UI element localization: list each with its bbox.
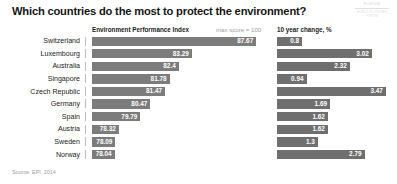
change-bar-track: 0.8 [277, 37, 390, 46]
country-label: Austria [0, 125, 80, 133]
country-label: Switzerland [0, 37, 80, 45]
change-bar-track: 1.62 [277, 125, 390, 134]
row-tick [85, 137, 86, 146]
row-tick [85, 37, 86, 46]
chart-rows: Switzerland87.670.8Luxembourg83.293.02Au… [0, 36, 397, 162]
change-bar[interactable]: 3.47 [277, 87, 386, 96]
change-bar-track: 1.69 [277, 99, 390, 108]
row-tick [85, 125, 86, 134]
row-tick [85, 87, 86, 96]
row-tick [85, 74, 86, 83]
change-bar-track: 3.02 [277, 49, 390, 58]
epi-bar[interactable]: 81.78 [92, 74, 170, 83]
change-bar-value: 0.94 [291, 76, 306, 82]
epi-bar-value: 81.47 [146, 88, 165, 94]
country-label: Luxembourg [0, 50, 80, 58]
epi-bar-value: 82.4 [163, 63, 178, 69]
change-bar[interactable]: 0.8 [277, 37, 302, 46]
change-bar-value: 1.62 [312, 126, 327, 132]
change-bar-value: 0.8 [290, 38, 302, 44]
epi-bar[interactable]: 78.04 [92, 150, 115, 159]
row-tick [85, 112, 86, 121]
change-bar-track: 2.79 [277, 150, 390, 159]
epi-bar-track: 81.78 [92, 74, 264, 83]
publisher-logo: FORUM WORLD ECONOMIC FORUM [351, 1, 393, 22]
country-label: Australia [0, 62, 80, 70]
epi-bar-track: 80.47 [92, 99, 264, 108]
country-label: Germany [0, 100, 80, 108]
change-bar-value: 1.62 [312, 114, 327, 120]
row-tick [85, 99, 86, 108]
epi-bar[interactable]: 79.79 [92, 112, 140, 121]
epi-bar-value: 81.78 [151, 76, 170, 82]
epi-bar-track: 82.4 [92, 62, 264, 71]
epi-bar[interactable]: 80.47 [92, 99, 150, 108]
epi-bar-track: 79.79 [92, 112, 264, 121]
epi-bar-track: 78.32 [92, 125, 264, 134]
change-bar[interactable]: 3.02 [277, 49, 372, 58]
epi-bar-track: 87.67 [92, 37, 264, 46]
change-bar-track: 3.47 [277, 87, 390, 96]
change-bar[interactable]: 2.32 [277, 62, 350, 71]
logo-divider [355, 8, 389, 9]
page-title: Which countries do the most to protect t… [12, 5, 306, 17]
logo-wordmark: FORUM [351, 1, 393, 7]
epi-bar-track: 78.09 [92, 137, 264, 146]
change-bar-value: 1.69 [315, 101, 330, 107]
chart-row: Germany80.471.69 [0, 99, 397, 112]
country-label: Norway [0, 151, 80, 159]
chart-row: Sweden78.091.3 [0, 137, 397, 150]
chart-row: Czech Republic81.473.47 [0, 86, 397, 99]
country-label: Spain [0, 113, 80, 121]
epi-bar-value: 80.47 [131, 101, 150, 107]
chart-row: Switzerland87.670.8 [0, 36, 397, 49]
column-header-epi: Environment Performance Index [92, 26, 189, 33]
change-bar[interactable]: 1.3 [277, 137, 318, 146]
epi-bar[interactable]: 78.09 [92, 137, 115, 146]
change-bar-track: 1.3 [277, 137, 390, 146]
epi-bar-value: 78.04 [96, 151, 115, 157]
row-tick [85, 62, 86, 71]
epi-bar-value: 79.79 [121, 114, 140, 120]
change-bar-value: 2.79 [349, 151, 364, 157]
epi-bar-track: 83.29 [92, 49, 264, 58]
epi-bar[interactable]: 78.32 [92, 125, 119, 134]
chart-row: Austria78.321.62 [0, 124, 397, 137]
country-label: Czech Republic [0, 88, 80, 96]
chart-row: Luxembourg83.293.02 [0, 49, 397, 62]
epi-bar-value: 87.67 [237, 38, 256, 44]
change-bar[interactable]: 1.62 [277, 125, 328, 134]
chart-row: Spain79.791.62 [0, 112, 397, 125]
change-bar-track: 2.32 [277, 62, 390, 71]
column-header-max-score: max score = 100 [216, 26, 261, 33]
change-bar-track: 1.62 [277, 112, 390, 121]
chart-row: Singapore81.780.94 [0, 74, 397, 87]
change-bar-value: 2.32 [334, 63, 349, 69]
change-bar[interactable]: 0.94 [277, 74, 307, 83]
country-label: Sweden [0, 138, 80, 146]
chart-row: Australia82.42.32 [0, 61, 397, 74]
change-bar[interactable]: 2.79 [277, 150, 365, 159]
epi-bar[interactable]: 81.47 [92, 87, 165, 96]
epi-bar[interactable]: 82.4 [92, 62, 179, 71]
logo-subtitle: WORLD ECONOMIC FORUM [351, 10, 393, 18]
epi-bar-track: 78.04 [92, 150, 264, 159]
source-note: Source: EPI, 2014 [12, 169, 56, 175]
epi-bar-value: 78.32 [100, 126, 119, 132]
column-header-change: 10 year change, % [277, 26, 332, 33]
change-bar-value: 3.02 [356, 51, 371, 57]
row-tick [85, 49, 86, 58]
epi-bar-value: 78.09 [96, 139, 115, 145]
change-bar-track: 0.94 [277, 74, 390, 83]
row-tick [85, 150, 86, 159]
epi-bar-value: 83.29 [173, 51, 192, 57]
change-bar[interactable]: 1.62 [277, 112, 328, 121]
change-bar-value: 3.47 [370, 88, 385, 94]
country-label: Singapore [0, 75, 80, 83]
change-bar[interactable]: 1.69 [277, 99, 330, 108]
chart-row: Norway78.042.79 [0, 149, 397, 162]
epi-bar[interactable]: 83.29 [92, 49, 192, 58]
epi-bar[interactable]: 87.67 [92, 37, 256, 46]
change-bar-value: 1.3 [306, 139, 318, 145]
epi-bar-track: 81.47 [92, 87, 264, 96]
